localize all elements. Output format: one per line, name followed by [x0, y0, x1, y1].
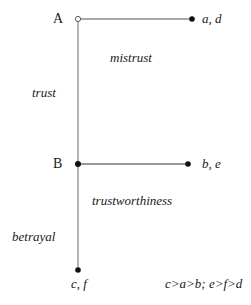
payoff-cf-label: c, f	[71, 277, 87, 290]
action-mistrust-label: mistrust	[110, 51, 152, 64]
payoff-ad-label: a, d	[202, 12, 222, 25]
node-b-dot	[75, 161, 81, 167]
action-trust-label: trust	[32, 86, 56, 99]
game-tree-diagram	[0, 0, 251, 305]
node-a-hollow-dot	[75, 16, 80, 21]
node-b-label: B	[53, 157, 62, 171]
node-a-label: A	[53, 12, 63, 26]
terminal-ad-dot	[189, 16, 195, 22]
action-trustworthiness-label: trustworthiness	[92, 194, 172, 207]
action-betrayal-label: betrayal	[12, 230, 55, 243]
terminal-be-dot	[185, 161, 191, 167]
payoff-ordering-condition: c>a>b; e>f>d	[165, 277, 242, 290]
payoff-be-label: b, e	[202, 157, 221, 170]
terminal-cf-dot	[75, 267, 81, 273]
